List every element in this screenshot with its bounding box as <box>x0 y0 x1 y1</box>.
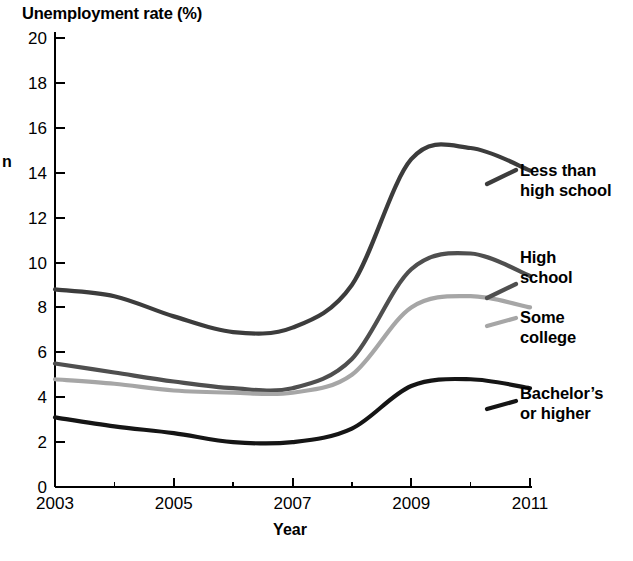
legend-item-high-school: High school <box>520 247 573 287</box>
x-axis-title: Year <box>0 521 580 539</box>
unemployment-rate-chart: Unemployment rate (%) n 0246810121416182… <box>0 0 633 561</box>
legend-label-line2: school <box>520 267 573 287</box>
x-tick-label: 2003 <box>36 494 74 513</box>
legend-label-line2: or higher <box>520 403 603 423</box>
legend-line-segment <box>487 401 516 409</box>
x-tick-label: 2009 <box>392 494 430 513</box>
legend-item-less-than-high-school: Less than high school <box>520 160 611 200</box>
legend-label-line1: Some <box>520 307 576 327</box>
series-line <box>55 144 530 333</box>
y-tick-label: 10 <box>28 254 47 273</box>
legend-label-line1: Less than <box>520 160 611 180</box>
y-tick-label: 18 <box>28 74 47 93</box>
legend-label-line1: Bachelor’s <box>520 383 603 403</box>
y-tick-label: 16 <box>28 119 47 138</box>
series-line <box>55 253 530 391</box>
x-tick-label: 2011 <box>512 494 549 513</box>
legend-line-segment <box>487 170 516 184</box>
y-tick-label: 14 <box>28 164 47 183</box>
legend-item-bachelors-or-higher: Bachelor’s or higher <box>520 383 603 423</box>
y-tick-label: 6 <box>38 343 47 362</box>
x-tick-label: 2005 <box>155 494 193 513</box>
y-tick-label: 12 <box>28 209 47 228</box>
legend-line-segment <box>487 318 516 326</box>
legend-item-some-college: Some college <box>520 307 576 347</box>
legend-line-segment <box>487 284 516 298</box>
y-tick-label: 8 <box>38 298 47 317</box>
y-tick-label: 2 <box>38 433 47 452</box>
y-tick-label: 20 <box>28 29 47 48</box>
legend-label-line2: high school <box>520 180 611 200</box>
legend-label-line1: High <box>520 247 573 267</box>
y-tick-label: 4 <box>38 388 47 407</box>
x-tick-label: 2007 <box>274 494 312 513</box>
legend-label-line2: college <box>520 327 576 347</box>
